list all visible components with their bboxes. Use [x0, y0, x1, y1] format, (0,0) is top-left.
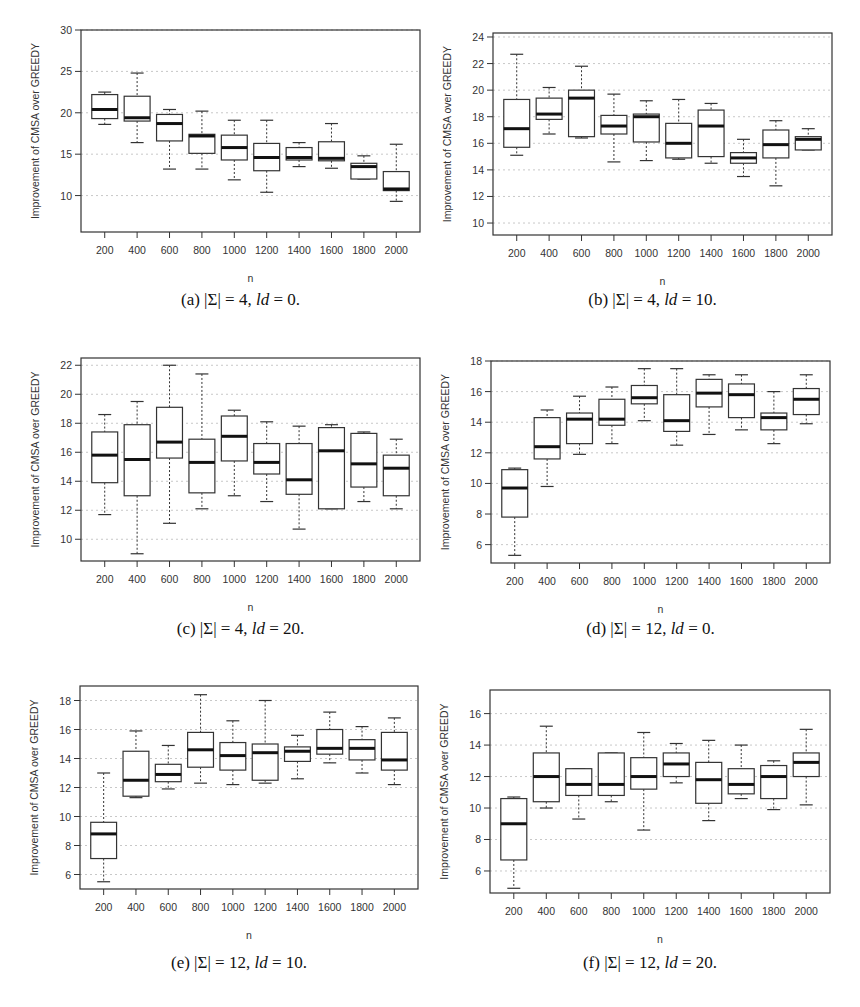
x-tick-label: 1400 [287, 573, 311, 585]
box-1800 [349, 727, 375, 773]
x-tick-label: 1000 [221, 901, 245, 913]
y-tick-label: 14 [60, 475, 72, 487]
y-tick-label: 18 [470, 355, 482, 367]
iqr-box [729, 384, 755, 418]
y-tick-label: 18 [59, 695, 71, 707]
x-tick-label: 2000 [385, 573, 409, 585]
box-400 [533, 726, 559, 808]
box-1000 [631, 732, 657, 830]
x-tick-label: 2000 [385, 244, 409, 256]
box-1600 [319, 425, 345, 509]
plot-frame [81, 30, 420, 232]
iqr-box [599, 399, 625, 425]
iqr-box [123, 751, 149, 796]
x-tick-label: 400 [538, 905, 556, 917]
box-1600 [728, 745, 754, 799]
y-tick-label: 20 [472, 84, 484, 96]
iqr-box [504, 99, 530, 147]
y-axis-title: Improvement of CMSA over GREEDY [29, 371, 41, 547]
iqr-box [92, 95, 118, 119]
box-200 [501, 797, 527, 888]
box-1000 [221, 410, 247, 496]
box-2000 [793, 375, 819, 424]
panel-caption: (c) |Σ| = 4, ld = 20. [177, 619, 304, 638]
x-tick-label: 1800 [762, 575, 786, 587]
box-200 [91, 773, 117, 882]
box-1200 [666, 99, 692, 159]
box-600 [157, 109, 183, 169]
iqr-box [189, 439, 215, 493]
iqr-box [761, 413, 787, 430]
x-tick-label: 1600 [320, 573, 344, 585]
panel-caption: (b) |Σ| = 4, ld = 10. [588, 290, 716, 309]
box-200 [92, 415, 118, 515]
y-tick-label: 12 [59, 782, 71, 794]
x-tick-label: 1800 [764, 247, 788, 259]
x-axis-title: n [660, 275, 666, 287]
y-tick-label: 8 [65, 840, 71, 852]
panel-caption: (a) |Σ| = 4, ld = 0. [181, 290, 300, 309]
x-tick-label: 1800 [762, 905, 786, 917]
x-tick-label: 600 [570, 905, 588, 917]
x-tick-label: 1400 [697, 905, 721, 917]
iqr-box [286, 444, 312, 495]
box-1200 [252, 701, 278, 784]
box-1200 [664, 369, 690, 446]
x-tick-label: 800 [603, 575, 621, 587]
y-tick-label: 14 [469, 739, 481, 751]
iqr-box [221, 416, 247, 461]
x-tick-label: 1600 [318, 901, 342, 913]
caption-ld: ld [254, 953, 268, 972]
iqr-box [631, 758, 657, 789]
box-1000 [221, 120, 247, 180]
iqr-box [91, 822, 117, 858]
caption-ld: ld [664, 290, 678, 309]
box-800 [601, 94, 627, 162]
caption-ld: ld [252, 619, 266, 638]
x-tick-label: 1000 [635, 247, 659, 259]
y-tick-label: 10 [470, 477, 482, 489]
y-tick-label: 12 [469, 771, 481, 783]
caption-suffix: = 10. [268, 953, 307, 972]
iqr-box [351, 433, 377, 487]
iqr-box [696, 762, 722, 803]
caption-prefix: (c) |Σ| = 4, [177, 619, 252, 638]
x-tick-label: 2000 [383, 901, 407, 913]
panel-caption: (e) |Σ| = 12, ld = 10. [171, 953, 307, 972]
x-tick-label: 400 [538, 575, 556, 587]
x-tick-label: 1600 [730, 575, 754, 587]
box-400 [124, 73, 150, 143]
x-tick-label: 400 [128, 244, 146, 256]
iqr-box [631, 385, 657, 403]
x-tick-label: 400 [540, 247, 558, 259]
x-tick-label: 600 [159, 901, 177, 913]
iqr-box [633, 114, 659, 142]
box-400 [536, 87, 562, 134]
x-axis-title: n [246, 929, 252, 941]
y-tick-label: 6 [475, 865, 481, 877]
box-1200 [254, 422, 280, 502]
box-800 [598, 753, 624, 802]
y-tick-label: 8 [475, 833, 481, 845]
x-tick-label: 1200 [255, 573, 279, 585]
x-tick-label: 400 [128, 573, 146, 585]
y-tick-label: 10 [469, 802, 481, 814]
iqr-box [728, 769, 754, 794]
y-tick-label: 10 [60, 533, 72, 545]
x-tick-label: 1800 [352, 244, 376, 256]
x-tick-label: 1400 [697, 575, 721, 587]
box-1400 [286, 143, 312, 167]
box-1000 [631, 369, 657, 421]
y-tick-label: 15 [60, 148, 72, 160]
x-tick-label: 800 [193, 244, 211, 256]
box-800 [188, 695, 214, 783]
box-200 [92, 92, 118, 124]
iqr-box [566, 769, 592, 796]
box-400 [534, 410, 560, 487]
caption-ld: ld [256, 290, 270, 309]
box-2000 [383, 144, 409, 201]
y-axis-title: Improvement of CMSA over GREEDY [28, 699, 40, 875]
x-tick-label: 1400 [699, 247, 723, 259]
box-1400 [286, 426, 312, 529]
x-tick-label: 200 [506, 575, 524, 587]
